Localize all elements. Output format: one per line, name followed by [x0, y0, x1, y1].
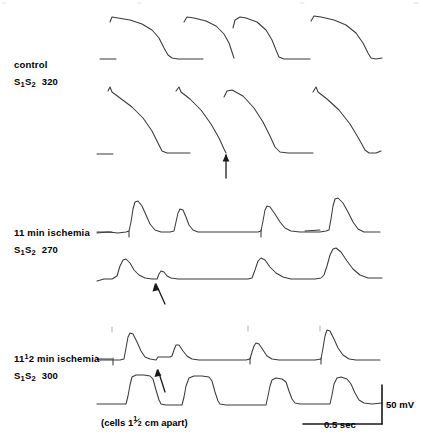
figure-canvas: control S1S2 320 11 min ischemia S1S2 27… [0, 0, 423, 443]
voltage-scale-label: 50 mV [386, 399, 414, 410]
stim-artifact-i11-c [305, 230, 320, 231]
condition-label-control: control [14, 60, 58, 70]
cells-distance-note: (cells 11⁄2 cm apart) [101, 417, 188, 428]
trace-ischemia11-cell2 [97, 248, 382, 281]
condition-label-ischemia-11: 11 min ischemia [14, 228, 90, 238]
trace-control-cell1-c [233, 17, 310, 59]
panel-label-ischemia-11-5: 1112 min ischemia S1S2 300 [14, 353, 100, 383]
protocol-label-control: S1S2 320 [14, 77, 58, 89]
arrow-annotation-control [223, 154, 230, 178]
protocol-label-ischemia-11-5: S1S2 300 [14, 371, 100, 383]
trace-ischemia11-cell1 [97, 198, 380, 233]
condition-label-ischemia-11-5: 1112 min ischemia [14, 353, 100, 364]
trace-control-cell1-d [311, 16, 382, 59]
protocol-label-ischemia-11: S1S2 270 [14, 245, 90, 257]
trace-control-cell2-d [313, 87, 381, 153]
trace-control-cell2-c [224, 90, 313, 153]
fraction-one-half: 1⁄2 [133, 417, 142, 427]
trace-ischemia115-cell1 [96, 330, 380, 360]
trace-control-cell2-b [176, 87, 226, 153]
trace-control-cell1 [110, 17, 203, 59]
trace-control-cell2 [108, 87, 190, 153]
time-scale-label: 0.5 sec [324, 419, 356, 430]
panel-label-ischemia-11: 11 min ischemia S1S2 270 [14, 228, 90, 257]
arrow-annotation-ischemia11 [153, 283, 166, 304]
panel-label-control: control S1S2 320 [14, 60, 58, 89]
trace-ischemia115-cell2 [97, 375, 382, 405]
trace-control-cell1-b [184, 17, 234, 58]
